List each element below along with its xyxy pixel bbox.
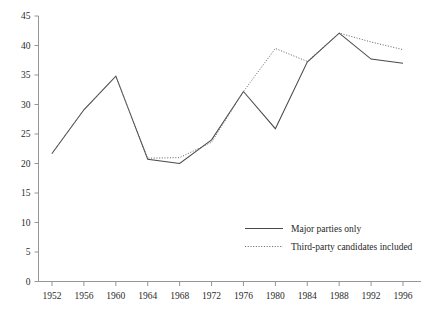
x-tick-label: 1996	[394, 291, 413, 301]
legend-label-major-parties-only: Major parties only	[291, 224, 361, 234]
x-tick-label: 1968	[170, 291, 189, 301]
y-tick-label: 30	[21, 100, 31, 110]
y-tick-label: 40	[21, 41, 31, 51]
y-tick-label: 0	[26, 277, 31, 287]
x-tick-label: 1980	[266, 291, 285, 301]
legend-label-third-party-included: Third-party candidates included	[291, 242, 413, 252]
x-tick-label: 1960	[106, 291, 125, 301]
chart-figure: 051015202530354045 195219561960196419681…	[0, 0, 432, 312]
y-tick-label: 25	[21, 129, 31, 139]
y-tick-label: 20	[21, 159, 31, 169]
y-tick-label: 35	[21, 70, 31, 80]
x-tick-label: 1984	[298, 291, 317, 301]
x-tick-label: 1976	[234, 291, 253, 301]
x-tick-label: 1952	[43, 291, 62, 301]
y-tick-label: 5	[26, 247, 31, 257]
chart-legend: Major parties only Third-party candidate…	[245, 224, 413, 252]
x-tick-label: 1964	[138, 291, 157, 301]
x-tick-label: 1972	[202, 291, 221, 301]
y-axis-ticks: 051015202530354045	[21, 11, 39, 287]
x-tick-label: 1956	[74, 291, 93, 301]
x-axis-ticks: 1952195619601964196819721976198019841988…	[43, 282, 413, 301]
x-tick-label: 1992	[362, 291, 381, 301]
series-major-parties-only-line	[52, 33, 403, 163]
line-chart: 051015202530354045 195219561960196419681…	[0, 0, 432, 312]
y-tick-label: 15	[21, 188, 31, 198]
y-tick-label: 45	[21, 11, 31, 21]
y-tick-label: 10	[21, 218, 31, 228]
clipped-header-text	[36, 0, 416, 2]
series-third-party-included-line	[52, 33, 403, 158]
x-tick-label: 1988	[330, 291, 349, 301]
